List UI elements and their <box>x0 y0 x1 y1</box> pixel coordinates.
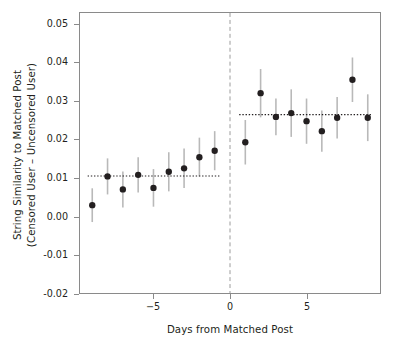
data-point <box>257 90 263 96</box>
data-point <box>120 186 126 192</box>
y-tick-label: 0.03 <box>47 95 68 106</box>
y-tick-label: 0.01 <box>47 172 68 183</box>
y-tick-label: 0.00 <box>47 211 68 222</box>
data-point <box>349 77 355 83</box>
x-tick <box>153 294 154 299</box>
data-point <box>135 172 141 178</box>
x-axis-label: Days from Matched Post <box>79 324 381 335</box>
x-tick-label: 5 <box>287 301 327 312</box>
y-tick-label: 0.05 <box>47 18 68 29</box>
data-point <box>303 118 309 124</box>
x-tick <box>307 294 308 299</box>
y-axis-label-line1: String Similarity to Matched Post <box>11 63 25 247</box>
y-tick-label: -0.01 <box>43 249 68 260</box>
y-axis-label: String Similarity to Matched Post (Censo… <box>0 0 50 310</box>
data-point <box>212 148 218 154</box>
plot-canvas <box>80 13 380 293</box>
chart-figure: String Similarity to Matched Post (Censo… <box>0 0 395 349</box>
data-point <box>196 154 202 160</box>
data-point <box>288 110 294 116</box>
data-point <box>89 202 95 208</box>
data-point <box>242 139 248 145</box>
x-tick-label: 0 <box>210 301 250 312</box>
data-point <box>319 128 325 134</box>
data-point <box>181 165 187 171</box>
y-tick <box>74 294 79 295</box>
data-point <box>334 115 340 121</box>
plot-area <box>79 12 381 294</box>
data-point <box>166 169 172 175</box>
y-tick-label: 0.02 <box>47 133 68 144</box>
y-tick-label: -0.02 <box>43 288 68 299</box>
data-point <box>150 185 156 191</box>
y-axis-label-line2: (Censored User – Uncensored User) <box>25 63 39 247</box>
x-tick <box>230 294 231 299</box>
data-point <box>365 115 371 121</box>
x-tick-label: −5 <box>133 301 173 312</box>
y-tick-label: 0.04 <box>47 56 68 67</box>
